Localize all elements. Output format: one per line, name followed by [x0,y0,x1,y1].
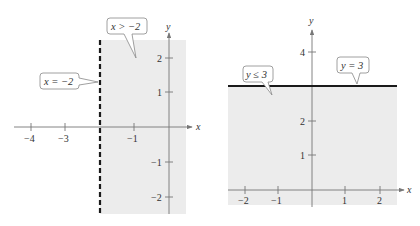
shaded-region-right [228,86,397,205]
x-tick-label: −3 [58,133,69,144]
svg-text:y ≤ 3: y ≤ 3 [245,69,267,80]
figure: x y −4 −3 −1 2 1 −1 −2 x > −2 [0,0,420,226]
svg-text:x = −2: x = −2 [43,76,74,87]
y-tick-label: 1 [157,87,162,98]
x-tick-label: −1 [271,195,282,206]
x-tick-label: −2 [238,195,249,206]
x-tick-label: −4 [24,133,35,144]
x-axis-label-left: x [195,121,201,132]
y-tick-label: 2 [157,53,162,64]
svg-text:x > −2: x > −2 [110,21,141,32]
y-tick-label: 1 [300,150,305,161]
x-tick-label: −1 [127,133,138,144]
x-tick-label: 2 [377,195,382,206]
x-tick-label: 1 [342,195,347,206]
y-tick-label: −1 [151,157,162,168]
y-axis-label-left: y [165,21,171,32]
x-axis-label-right: x [406,184,412,195]
y-tick-label: 4 [300,47,305,58]
callout-y-equals-3: y = 3 [337,57,369,84]
y-tick-label: 2 [300,116,305,127]
callout-x-equals-neg2: x = −2 [40,73,98,89]
svg-text:y = 3: y = 3 [340,60,363,71]
right-graph: x y −2 −1 1 2 4 2 1 y ≤ 3 [228,15,412,207]
left-graph: x y −4 −3 −1 2 1 −1 −2 x > −2 [14,18,201,214]
y-axis-label-right: y [308,15,314,26]
y-tick-label: −2 [151,192,162,203]
